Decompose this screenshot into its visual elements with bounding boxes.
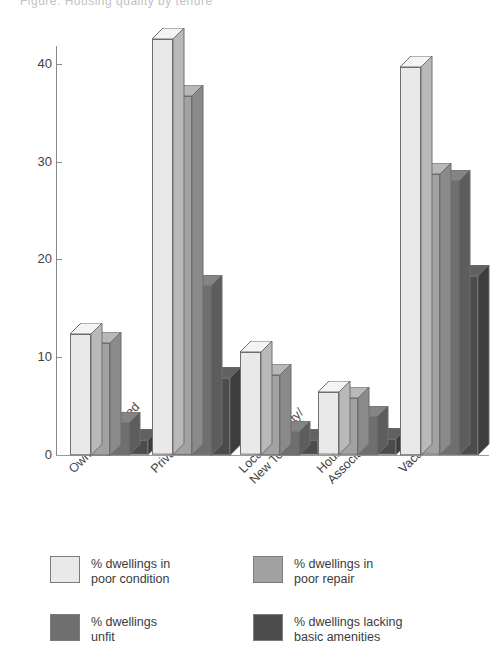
legend-swatch bbox=[50, 556, 80, 583]
bar-3d-shading bbox=[400, 56, 434, 457]
y-axis-line bbox=[56, 46, 57, 455]
legend-item[interactable]: % dwellings lacking basic amenities bbox=[253, 614, 402, 645]
legend-label: % dwellings lacking basic amenities bbox=[294, 614, 402, 645]
legend-swatch bbox=[253, 614, 283, 641]
bar-3d-shading bbox=[70, 323, 104, 457]
bar-column bbox=[152, 28, 184, 455]
bar-3d-shading bbox=[318, 381, 352, 457]
y-tick-mark bbox=[56, 64, 62, 65]
plot-area: 010203040 Owner-OccupiedPrivate-RentedLo… bbox=[0, 0, 499, 470]
y-tick-label: 40 bbox=[8, 57, 52, 70]
y-tick-label: 30 bbox=[8, 155, 52, 168]
y-tick-mark bbox=[56, 259, 62, 260]
legend-label: % dwellings unfit bbox=[91, 614, 157, 645]
y-tick-label: 0 bbox=[8, 448, 52, 461]
bar-column bbox=[400, 56, 432, 455]
bar-3d-shading bbox=[152, 28, 186, 457]
bar-column bbox=[240, 341, 272, 455]
legend-item[interactable]: % dwellings in poor repair bbox=[253, 556, 373, 587]
legend-swatch bbox=[253, 556, 283, 583]
y-tick-mark bbox=[56, 162, 62, 163]
bar-column bbox=[70, 323, 102, 455]
legend-item[interactable]: % dwellings in poor condition bbox=[50, 556, 170, 587]
y-tick-mark bbox=[56, 357, 62, 358]
legend-item[interactable]: % dwellings unfit bbox=[50, 614, 157, 645]
chart-figure: Figure: Housing quality by tenure 010203… bbox=[0, 0, 499, 667]
legend-swatch bbox=[50, 614, 80, 641]
legend-label: % dwellings in poor condition bbox=[91, 556, 170, 587]
y-tick-label: 20 bbox=[8, 252, 52, 265]
y-tick-label: 10 bbox=[8, 350, 52, 363]
bar-3d-shading bbox=[240, 341, 274, 457]
bar-column bbox=[318, 381, 350, 455]
legend-label: % dwellings in poor repair bbox=[294, 556, 373, 587]
